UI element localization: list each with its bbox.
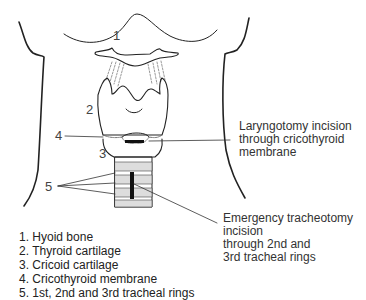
hyoid-bone (95, 48, 178, 66)
label-3-cricoid: 3 (99, 146, 106, 161)
legend-item: 2. Thyroid cartilage (19, 244, 194, 258)
neck-outline-right (223, 18, 249, 198)
label-5-rings: 5 (45, 179, 52, 194)
legend-item: 3. Cricoid cartilage (19, 258, 194, 272)
legend: 1. Hyoid bone 2. Thyroid cartilage 3. Cr… (19, 230, 194, 300)
tracheotomy-annotation: Emergency tracheotomy incision through 2… (223, 212, 353, 264)
thyroid-cartilage (98, 78, 168, 135)
laryngotomy-annotation: Laryngotomy incision through cricothyroi… (239, 120, 352, 159)
legend-item: 5. 1st, 2nd and 3rd tracheal rings (19, 286, 194, 300)
neck-outline-left (19, 22, 44, 206)
leader-5a (58, 173, 115, 186)
leader-5c (58, 186, 115, 194)
thyroid-notch (126, 109, 142, 113)
leader-5b (58, 183, 115, 186)
jaw-curve (64, 14, 217, 42)
tracheotomy-incision-mark (130, 172, 134, 199)
laryngotomy-incision-mark (125, 140, 144, 143)
leader-laryngotomy (149, 140, 230, 141)
label-1-hyoid: 1 (113, 28, 120, 43)
leader-4 (65, 136, 103, 137)
legend-item: 4. Cricothyroid membrane (19, 272, 194, 286)
label-2-thyroid: 2 (86, 102, 93, 117)
label-4-membrane: 4 (55, 128, 62, 143)
legend-item: 1. Hyoid bone (19, 230, 194, 244)
